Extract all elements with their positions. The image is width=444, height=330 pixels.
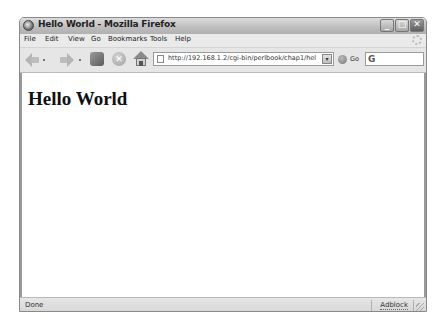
browser-window: Hello World - Mozilla Firefox _ □ ✕ File…: [19, 17, 427, 312]
back-history-dropdown[interactable]: [43, 59, 45, 61]
resize-grip[interactable]: [416, 303, 424, 311]
page-content: Hello World: [20, 73, 426, 297]
page-heading: Hello World: [28, 88, 127, 110]
title-bar[interactable]: Hello World - Mozilla Firefox _ □ ✕: [20, 18, 426, 34]
url-dropdown-button[interactable]: ▾: [322, 54, 332, 64]
minimize-button[interactable]: _: [380, 19, 394, 32]
home-button[interactable]: [133, 51, 149, 67]
maximize-icon: □: [396, 19, 408, 29]
status-divider: [413, 300, 414, 311]
status-text: Done: [25, 301, 43, 309]
url-bar[interactable]: http://192.168.1.2/cgi-bin/perlbook/chap…: [153, 52, 334, 66]
menu-view[interactable]: View: [68, 35, 85, 43]
go-button[interactable]: Go: [350, 55, 359, 63]
menu-go[interactable]: Go: [91, 35, 101, 43]
forward-icon: [67, 53, 74, 67]
page-icon: [157, 55, 164, 63]
stop-button[interactable]: ✕: [112, 52, 126, 66]
minimize-icon: _: [381, 20, 393, 30]
reload-button[interactable]: [90, 52, 104, 66]
menu-edit[interactable]: Edit: [45, 35, 59, 43]
menu-file[interactable]: File: [24, 35, 36, 43]
go-icon[interactable]: [338, 55, 347, 64]
search-box[interactable]: G: [365, 52, 424, 66]
throbber-icon: [412, 35, 422, 45]
back-button[interactable]: [25, 53, 39, 67]
adblock-status[interactable]: Adblock: [380, 301, 408, 310]
url-input[interactable]: http://192.168.1.2/cgi-bin/perlbook/chap…: [168, 54, 316, 62]
window-title: Hello World - Mozilla Firefox: [38, 19, 176, 29]
firefox-icon: [23, 20, 34, 31]
close-icon: ✕: [411, 19, 423, 29]
google-search-icon[interactable]: G: [368, 54, 375, 64]
menu-help[interactable]: Help: [175, 35, 191, 43]
forward-button[interactable]: [60, 53, 74, 67]
window-controls: _ □ ✕: [380, 19, 424, 32]
status-bar: Done Adblock: [20, 297, 426, 312]
maximize-button[interactable]: □: [395, 19, 409, 32]
menu-tools[interactable]: Tools: [150, 35, 167, 43]
status-divider: [371, 300, 372, 311]
menu-bar: File Edit View Go Bookmarks Tools Help: [20, 34, 426, 48]
forward-history-dropdown[interactable]: [79, 59, 81, 61]
menu-bookmarks[interactable]: Bookmarks: [108, 35, 147, 43]
navigation-toolbar: ✕ http://192.168.1.2/cgi-bin/perlbook/ch…: [20, 48, 426, 73]
close-button[interactable]: ✕: [410, 19, 424, 32]
